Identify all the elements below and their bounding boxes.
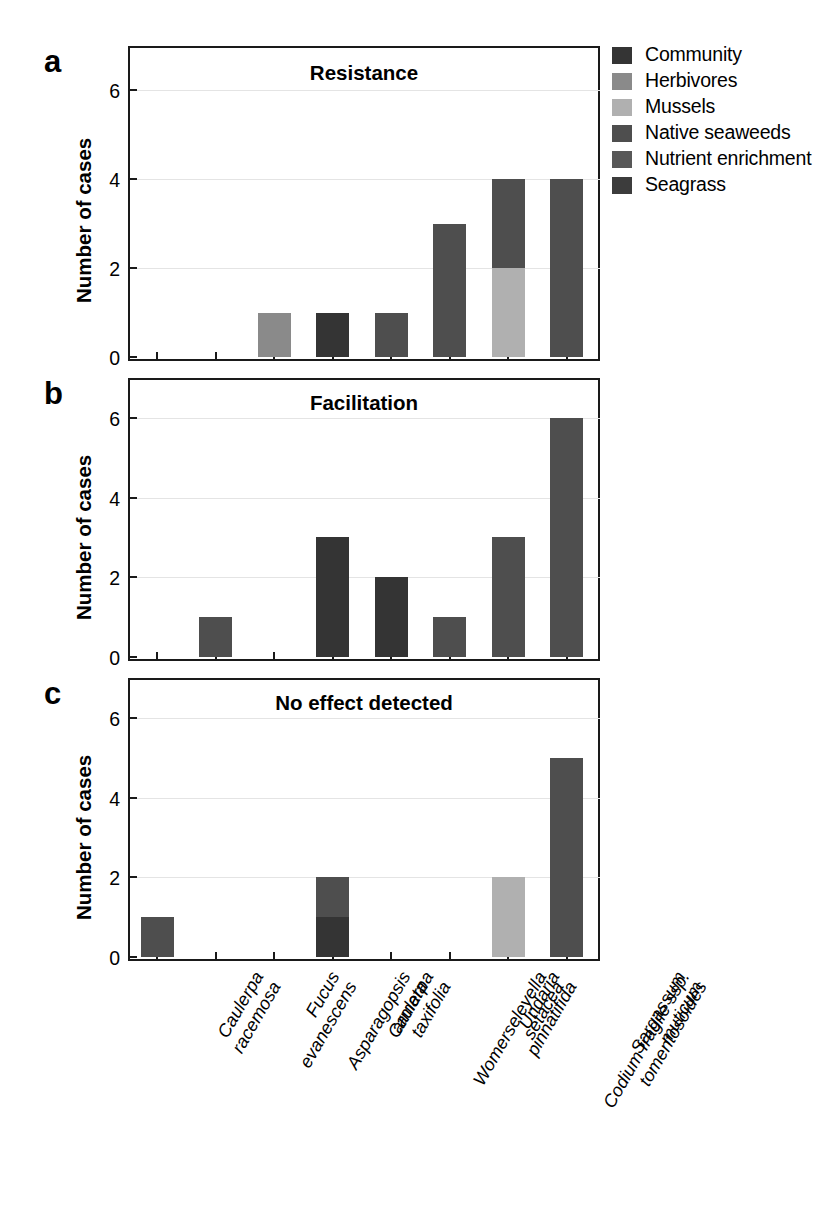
x-category-label: Womerseleyella setacea <box>469 968 568 1099</box>
y-tick-label: 0 <box>90 949 120 969</box>
bar-segment <box>141 917 174 957</box>
legend-swatch-icon <box>612 99 632 116</box>
legend-swatch-icon <box>612 47 632 64</box>
x-category-label: Undaria pinnatifida <box>505 968 581 1059</box>
y-tick-label: 4 <box>90 171 120 191</box>
y-tick-label: 6 <box>90 82 120 102</box>
legend-item: Nutrient enrichment <box>612 146 827 172</box>
y-tick-label: 6 <box>90 710 120 730</box>
legend-swatch-icon <box>612 151 632 168</box>
y-tick-mark <box>128 717 137 719</box>
bar-segment <box>316 917 349 957</box>
y-tick-mark <box>128 576 137 578</box>
legend-item-label: Nutrient enrichment <box>645 149 811 169</box>
bar-segment <box>433 224 466 357</box>
x-category-label: Caulerpa taxifolia <box>383 968 454 1051</box>
x-tick-mark <box>215 952 217 961</box>
y-tick-mark <box>128 267 137 269</box>
y-tick-mark <box>128 956 137 958</box>
y-tick-mark <box>128 876 137 878</box>
legend-swatch-icon <box>612 73 632 90</box>
legend-item-label: Seagrass <box>645 175 726 195</box>
x-tick-mark <box>449 952 451 961</box>
y-tick-mark <box>128 89 137 91</box>
legend-item: Seagrass <box>612 172 827 198</box>
bar-segment <box>375 577 408 657</box>
y-tick-mark <box>128 656 137 658</box>
legend-item-label: Native seaweeds <box>645 123 791 143</box>
y-tick-mark <box>128 797 137 799</box>
legend: CommunityHerbivoresMusselsNative seaweed… <box>612 42 827 198</box>
figure-root: CommunityHerbivoresMusselsNative seaweed… <box>0 0 829 1216</box>
plot-area-c <box>128 678 600 961</box>
legend-item: Native seaweeds <box>612 120 827 146</box>
x-tick-mark <box>273 652 275 661</box>
bar-segment <box>550 418 583 657</box>
bar-segment <box>316 537 349 657</box>
gridline <box>128 179 600 180</box>
legend-item-label: Mussels <box>645 97 715 117</box>
x-tick-mark <box>390 952 392 961</box>
legend-item-label: Community <box>645 45 742 65</box>
bar-segment <box>550 758 583 957</box>
x-tick-mark <box>156 352 158 361</box>
legend-swatch-icon <box>612 177 632 194</box>
x-category-label: Sargassum muticum <box>626 968 706 1067</box>
chart-panel-facilitation: Facilitation <box>128 378 600 661</box>
chart-panel-no-effect: No effect detected <box>128 678 600 961</box>
y-axis-label-b: Number of cases <box>74 455 95 620</box>
x-category-label: Caulerpa racemosa <box>211 968 285 1057</box>
bar-segment <box>492 537 525 657</box>
y-tick-label: 2 <box>90 869 120 889</box>
y-tick-mark <box>128 178 137 180</box>
bar-segment <box>316 313 349 357</box>
bar-segment <box>316 877 349 917</box>
gridline <box>128 498 600 499</box>
panel-letter-b: b <box>44 378 63 409</box>
y-tick-label: 4 <box>90 790 120 810</box>
y-tick-label: 6 <box>90 410 120 430</box>
panel-letter-c: c <box>44 678 61 709</box>
chart-panel-resistance: Resistance <box>128 46 600 361</box>
legend-item-label: Herbivores <box>645 71 737 91</box>
x-category-label: Codium fragile ssp. tomentosoides <box>599 968 711 1122</box>
y-tick-mark <box>128 417 137 419</box>
gridline <box>128 577 600 578</box>
y-tick-label: 0 <box>90 649 120 669</box>
legend-item: Community <box>612 42 827 68</box>
gridline <box>128 268 600 269</box>
y-tick-mark <box>128 497 137 499</box>
bar-segment <box>258 313 291 357</box>
bar-segment <box>199 617 232 657</box>
plot-area-a <box>128 46 600 361</box>
legend-item: Herbivores <box>612 68 827 94</box>
legend-swatch-icon <box>612 125 632 142</box>
bar-segment <box>375 313 408 357</box>
gridline <box>128 877 600 878</box>
gridline <box>128 418 600 419</box>
bar-segment <box>492 268 525 357</box>
panel-letter-a: a <box>44 46 61 77</box>
x-category-label: Asparagopsis armata <box>343 968 432 1083</box>
y-tick-label: 2 <box>90 569 120 589</box>
bar-segment <box>492 877 525 957</box>
bar-segment <box>492 179 525 268</box>
y-tick-label: 2 <box>90 260 120 280</box>
x-tick-mark <box>156 652 158 661</box>
x-category-label: Fucus evanescens <box>278 968 361 1071</box>
x-tick-mark <box>215 352 217 361</box>
bar-segment <box>550 179 583 357</box>
gridline <box>128 718 600 719</box>
y-tick-mark <box>128 356 137 358</box>
y-axis-label-c: Number of cases <box>74 755 95 920</box>
gridline <box>128 90 600 91</box>
x-tick-mark <box>273 952 275 961</box>
legend-item: Mussels <box>612 94 827 120</box>
y-tick-label: 4 <box>90 490 120 510</box>
y-tick-label: 0 <box>90 349 120 369</box>
bar-segment <box>433 617 466 657</box>
gridline <box>128 798 600 799</box>
plot-area-b <box>128 378 600 661</box>
